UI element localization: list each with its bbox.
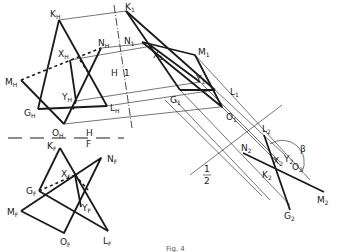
- descriptive-geometry-figure: KH NH XH MH YH GH LH OH H 1 K1 N1 X1 M1 …: [0, 0, 341, 252]
- figure-canvas: KH NH XH MH YH GH LH OH H 1 K1 N1 X1 M1 …: [0, 0, 341, 252]
- edge-kh-gh: [38, 20, 59, 109]
- edge-xh-yh: [70, 60, 76, 101]
- fold-label-2-bottom: 2: [204, 176, 210, 186]
- label-l1: L1: [230, 87, 239, 98]
- aux-view-1: K1 N1 X1 M1 Y1 G1 L1 O1: [124, 2, 239, 123]
- fold-label-1-top: 1: [204, 164, 210, 174]
- label-mh: MH: [5, 77, 17, 88]
- label-mf: MF: [7, 207, 19, 218]
- label-lf: LF: [103, 236, 112, 247]
- figure-caption: Fig. 4: [166, 245, 185, 252]
- fold-label-f-bottom: F: [86, 139, 91, 149]
- label-n2: N2: [241, 143, 252, 154]
- label-m2: M2: [317, 195, 329, 206]
- edge-xh-hidden: [80, 60, 88, 72]
- label-yh: YH: [61, 92, 72, 103]
- label-g2: G2: [284, 211, 295, 222]
- label-beta: β: [300, 144, 306, 154]
- front-view-f: KF NF XF GF MF YF OF LF: [7, 141, 118, 248]
- label-nf: NF: [107, 154, 118, 165]
- label-k1: K1: [125, 2, 135, 13]
- label-n1: N1: [124, 36, 135, 47]
- aux-view-2: L2 N2 X2 Y2 O2 K2 M2 G2 β: [241, 124, 329, 222]
- label-of: OF: [60, 237, 71, 248]
- edge-kf-gf: [39, 148, 60, 191]
- fold-label-h: H: [111, 68, 118, 78]
- label-x1: X1: [153, 50, 163, 61]
- fold-label-1: 1: [124, 68, 130, 78]
- fold-label-h-top: H: [86, 128, 93, 138]
- label-kh: KH: [50, 9, 60, 20]
- label-gh: GH: [24, 108, 36, 119]
- label-m1: M1: [198, 47, 210, 58]
- label-k2: K2: [262, 170, 272, 181]
- label-xf: XF: [61, 169, 71, 180]
- edge-kf-lf: [60, 148, 108, 231]
- label-kf: KF: [47, 141, 57, 152]
- label-yf: YF: [81, 203, 92, 214]
- label-gf: GF: [26, 186, 37, 197]
- label-xh: XH: [58, 49, 69, 60]
- label-y1: Y1: [195, 74, 206, 85]
- top-view-h: KH NH XH MH YH GH LH OH: [5, 9, 120, 139]
- label-x2: X2: [273, 156, 283, 167]
- label-o2: O2: [292, 162, 303, 173]
- label-l2: L2: [262, 124, 271, 135]
- label-oh: OH: [52, 128, 64, 139]
